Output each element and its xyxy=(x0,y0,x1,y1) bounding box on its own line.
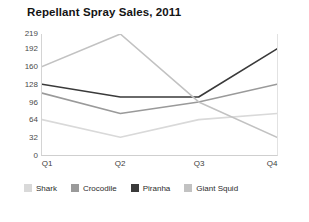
y-axis-tick: 219 xyxy=(25,30,38,38)
x-axis-tick: Q1 xyxy=(42,159,53,168)
series-line xyxy=(42,49,277,97)
legend-item[interactable]: Piranha xyxy=(131,184,171,193)
x-axis-tick-labels: Q1Q2Q3Q4 xyxy=(41,159,278,173)
y-axis-tick: 0 xyxy=(34,152,38,160)
legend-label: Shark xyxy=(36,184,57,193)
legend-item[interactable]: Crocodile xyxy=(71,184,117,193)
legend-item[interactable]: Giant Squid xyxy=(184,184,238,193)
series-line xyxy=(42,34,277,137)
legend-swatch xyxy=(131,184,139,192)
legend-swatch xyxy=(71,184,79,192)
y-axis-tick: 64 xyxy=(29,116,38,124)
legend-label: Giant Squid xyxy=(196,184,238,193)
legend-label: Crocodile xyxy=(83,184,117,193)
legend-swatch xyxy=(24,184,32,192)
legend-swatch xyxy=(184,184,192,192)
chart-legend: SharkCrocodilePiranhaGiant Squid xyxy=(24,182,238,194)
y-axis-tick: 128 xyxy=(25,81,38,89)
chart-title: Repellant Spray Sales, 2011 xyxy=(27,6,181,18)
y-axis-tick: 160 xyxy=(25,63,38,71)
line-chart: Repellant Spray Sales, 2011 032649612816… xyxy=(0,0,309,222)
y-axis-tick: 96 xyxy=(29,99,38,107)
x-axis-tick: Q2 xyxy=(115,159,126,168)
series-lines xyxy=(42,34,277,155)
plot-area xyxy=(41,34,278,156)
x-axis-tick: Q3 xyxy=(194,159,205,168)
x-axis-tick: Q4 xyxy=(267,159,278,168)
legend-item[interactable]: Shark xyxy=(24,184,57,193)
series-line xyxy=(42,114,277,138)
y-axis-tick: 192 xyxy=(25,45,38,53)
y-axis-tick: 32 xyxy=(29,134,38,142)
plot-wrapper: 0326496128160192219 Q1Q2Q3Q4 xyxy=(0,30,309,165)
y-axis-tick-labels: 0326496128160192219 xyxy=(0,30,40,165)
legend-label: Piranha xyxy=(143,184,171,193)
series-line xyxy=(42,84,277,113)
